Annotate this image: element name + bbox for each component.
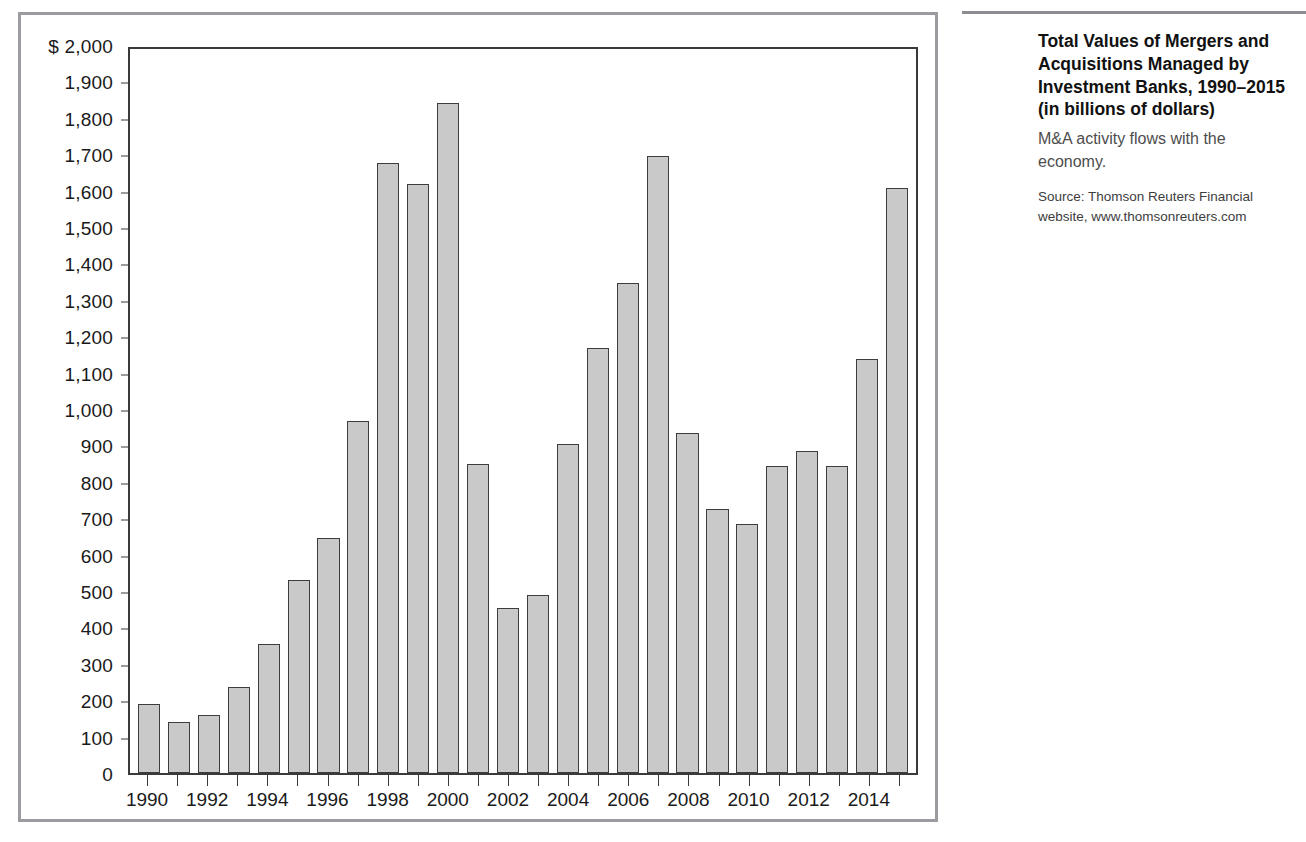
x-tick-2000 [448,775,449,786]
bar-slot [373,49,403,773]
y-tick-label: 1,900 [64,72,113,94]
bar-1991 [168,722,190,773]
plot-wrapper: $ 2,0001,9001,8001,7001,6001,5001,4001,3… [21,15,935,819]
y-tick-mark [121,83,128,84]
y-tick-label: 1,800 [64,109,113,131]
bar-series [130,49,916,773]
x-tick-1996 [328,775,329,786]
bar-2004 [557,444,579,773]
bar-1997 [347,421,369,773]
bar-slot [882,49,912,773]
x-axis-label-1994: 1994 [246,789,288,811]
bar-1993 [228,687,250,773]
x-tick-2003 [538,775,539,786]
bar-2011 [766,466,788,773]
x-axis-ticks [128,775,918,787]
y-tick-label: 1,700 [64,145,113,167]
y-tick-mark [121,483,128,484]
y-tick-label: 700 [81,509,113,531]
bar-slot [493,49,523,773]
bar-slot [583,49,613,773]
bar-2010 [736,524,758,773]
x-axis-label-1998: 1998 [367,789,409,811]
y-tick-mark [121,738,128,739]
bar-1992 [198,715,220,773]
bar-slot [852,49,882,773]
x-axis-label-2012: 2012 [788,789,830,811]
plot-area [128,47,918,775]
caption-source: Source: Thomson Reuters Financial websit… [1038,187,1296,225]
bar-slot [792,49,822,773]
caption-description: M&A activity flows with the economy. [1038,127,1296,173]
y-tick-mark [121,119,128,120]
y-tick-mark [121,447,128,448]
x-tick-1995 [297,775,298,786]
x-tick-1990 [147,775,148,786]
x-tick-2007 [658,775,659,786]
y-axis: $ 2,0001,9001,8001,7001,6001,5001,4001,3… [21,15,121,775]
x-tick-2008 [688,775,689,786]
bar-slot [403,49,433,773]
bar-2006 [617,283,639,774]
x-tick-1993 [237,775,238,786]
bar-1998 [377,163,399,773]
x-tick-2002 [508,775,509,786]
x-tick-1997 [358,775,359,786]
bar-1995 [288,580,310,773]
y-tick-label: 1,300 [64,291,113,313]
bar-slot [732,49,762,773]
bar-1990 [138,704,160,773]
bar-slot [762,49,792,773]
x-axis-label-2006: 2006 [607,789,649,811]
x-tick-2013 [839,775,840,786]
bar-2012 [796,451,818,773]
y-tick-label: 1,500 [64,218,113,240]
y-tick-label: 100 [81,728,113,750]
bar-slot [553,49,583,773]
x-tick-2005 [598,775,599,786]
bar-slot [523,49,553,773]
bar-slot [673,49,703,773]
y-tick-label: 1,200 [64,327,113,349]
y-tick-mark [121,411,128,412]
bar-2007 [647,156,669,773]
bar-1994 [258,644,280,773]
x-tick-2006 [628,775,629,786]
x-axis-label-2014: 2014 [848,789,890,811]
x-axis-labels: 1990199219941996199820002002200420062008… [128,789,918,819]
x-axis-label-2000: 2000 [427,789,469,811]
caption-title: Total Values of Mergers and Acquisitions… [1038,30,1296,98]
y-tick-mark [121,374,128,375]
y-tick-label: 300 [81,655,113,677]
x-tick-1994 [267,775,268,786]
bar-2009 [706,509,728,773]
y-tick-label: 800 [81,473,113,495]
y-tick-label: 1,600 [64,182,113,204]
x-tick-2004 [568,775,569,786]
bar-2014 [856,359,878,773]
y-tick-mark [121,192,128,193]
y-tick-label: 1,000 [64,400,113,422]
caption-subtitle: (in billions of dollars) [1038,98,1296,121]
bar-slot [254,49,284,773]
bar-slot [343,49,373,773]
x-axis-label-1990: 1990 [126,789,168,811]
x-tick-2011 [779,775,780,786]
y-tick-label: 1,100 [64,364,113,386]
bar-2013 [826,466,848,773]
bar-2000 [437,103,459,773]
y-tick-label: 1,400 [64,254,113,276]
bar-slot [134,49,164,773]
bar-slot [194,49,224,773]
bar-slot [164,49,194,773]
chart-frame: $ 2,0001,9001,8001,7001,6001,5001,4001,3… [18,12,938,822]
y-tick-label: 600 [81,546,113,568]
y-tick-label: 500 [81,582,113,604]
y-tick-label: 0 [102,764,113,786]
bar-slot [314,49,344,773]
x-axis-label-1996: 1996 [306,789,348,811]
x-tick-1999 [418,775,419,786]
y-tick-label: 400 [81,618,113,640]
y-tick-mark [121,156,128,157]
y-tick-label: 200 [81,691,113,713]
